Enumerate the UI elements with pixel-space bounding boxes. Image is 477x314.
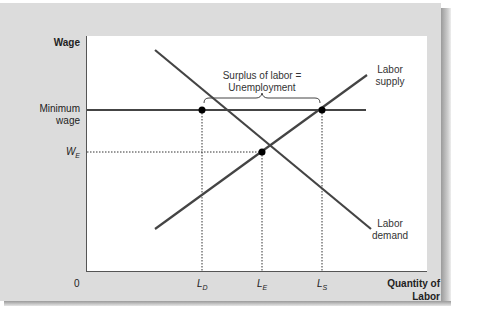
surplus-annotation-line2: Unemployment bbox=[200, 82, 324, 94]
labor-supply-label: Labor supply bbox=[370, 64, 410, 88]
x-axis-label-line1: Quantity of bbox=[350, 277, 440, 290]
ls-sub: S bbox=[323, 284, 328, 291]
labor-demand-label-line2: demand bbox=[366, 230, 414, 242]
origin-label: 0 bbox=[74, 278, 80, 289]
equilibrium-point bbox=[259, 149, 266, 156]
ld-sub: D bbox=[203, 284, 208, 291]
le-label: LE bbox=[257, 278, 267, 291]
min-wage-label: Minimum wage bbox=[20, 103, 80, 127]
surplus-annotation-line1: Surplus of labor = bbox=[200, 70, 324, 82]
supply-minwage-point bbox=[319, 107, 326, 114]
surplus-brace bbox=[204, 93, 320, 103]
x-axis-label-line2: Labor bbox=[350, 290, 440, 303]
y-axis-label: Wage bbox=[30, 37, 80, 48]
demand-minwage-point bbox=[199, 107, 206, 114]
labor-demand-label-line1: Labor bbox=[366, 218, 414, 230]
le-sub: E bbox=[263, 284, 268, 291]
x-axis-label: Quantity of Labor bbox=[350, 277, 440, 303]
we-main: W bbox=[66, 146, 75, 157]
surplus-annotation: Surplus of labor = Unemployment bbox=[200, 70, 324, 94]
labor-demand-label: Labor demand bbox=[366, 218, 414, 242]
we-label: WE bbox=[50, 146, 80, 159]
labor-supply-label-line1: Labor bbox=[370, 64, 410, 76]
min-wage-label-line2: wage bbox=[20, 115, 80, 127]
ls-label: LS bbox=[317, 278, 327, 291]
labor-supply-label-line2: supply bbox=[370, 76, 410, 88]
min-wage-label-line1: Minimum bbox=[20, 103, 80, 115]
ld-label: LD bbox=[197, 278, 208, 291]
we-sub: E bbox=[75, 152, 80, 159]
